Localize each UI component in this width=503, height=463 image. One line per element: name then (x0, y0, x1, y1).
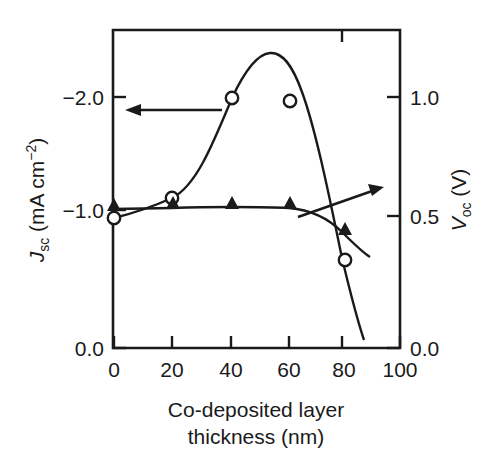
right-axis-title-subscript: oc (458, 203, 474, 218)
x-tick-label-1: 20 (160, 358, 183, 381)
jsc-markers (108, 92, 351, 266)
figure-container: −2.0 −1.0 0.0 1.0 0.5 0.0 0 20 40 60 80 … (0, 0, 503, 463)
left-tick-label-2: 0.0 (75, 337, 104, 360)
voc-point-80nm (338, 222, 352, 235)
left-axis-title-units: (mA cm (25, 161, 48, 238)
left-axis-title-exponent: −2 (23, 145, 39, 161)
right-axis-title: Voc (V) (447, 169, 474, 232)
x-axis-title-line1: Co-deposited layer (168, 398, 344, 421)
chart-svg: −2.0 −1.0 0.0 1.0 0.5 0.0 0 20 40 60 80 … (0, 0, 503, 463)
left-axis-title-symbol: J (25, 251, 48, 263)
left-tick-label-0: −2.0 (63, 86, 104, 109)
jsc-point-40nm (226, 92, 238, 104)
plot-frame (113, 30, 400, 348)
voc-point-0nm (107, 198, 121, 211)
x-tick-label-0: 0 (108, 358, 120, 381)
right-axis-ticks (387, 97, 400, 348)
left-axis-title-paren: ) (25, 138, 48, 145)
x-tick-label-5: 100 (382, 358, 417, 381)
svg-text:Jsc (mA cm−2): Jsc (mA cm−2) (23, 138, 52, 263)
x-tick-label-3: 60 (277, 358, 300, 381)
right-axis-title-units: (V) (447, 169, 470, 203)
jsc-point-0nm (108, 212, 120, 224)
voc-point-40nm (225, 196, 239, 209)
right-tick-label-1: 0.5 (410, 205, 439, 228)
voc-markers (107, 196, 352, 235)
right-tick-label-0: 1.0 (410, 86, 439, 109)
right-tick-label-2: 0.0 (410, 337, 439, 360)
left-axis-title-subscript: sc (36, 238, 52, 252)
voc-curve (114, 207, 370, 257)
bottom-axis-ticks (114, 336, 400, 348)
x-tick-label-2: 40 (219, 358, 242, 381)
left-tick-label-1: −1.0 (63, 199, 104, 222)
svg-text:Voc (V): Voc (V) (447, 169, 474, 232)
x-axis-title-line2: thickness (nm) (188, 425, 325, 448)
left-pointing-arrow-icon (125, 104, 222, 116)
left-axis-title: Jsc (mA cm−2) (23, 138, 52, 263)
x-tick-label-4: 80 (332, 358, 355, 381)
jsc-point-80nm (339, 254, 351, 266)
voc-point-60nm (283, 196, 297, 209)
jsc-point-60nm (284, 95, 296, 107)
right-pointing-arrow-icon (298, 184, 384, 217)
